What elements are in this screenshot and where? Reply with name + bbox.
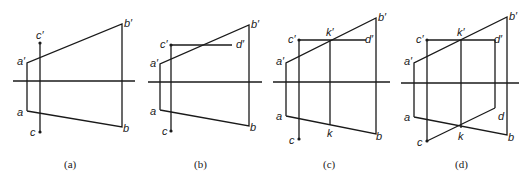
caption-a: (a) [64,158,77,171]
label-c-prime: c′ [416,33,425,45]
point-c-prime [297,38,300,41]
figure-a: c′ a′ b′ a b c (a) [13,17,135,171]
label-c: c [162,125,168,137]
label-a-prime: a′ [150,57,159,69]
label-b-prime: b′ [378,11,387,23]
label-a-prime: a′ [276,55,285,67]
point-c [297,137,300,140]
label-d-prime: d′ [236,38,245,50]
label-a: a [17,106,23,118]
point-c-prime [38,41,41,44]
caption-b: (b) [194,158,207,171]
figure-c: c′ k′ d′ a′ b′ a b c k (c) [273,11,390,171]
point-c-prime [425,38,428,41]
label-k-prime: k′ [457,26,466,38]
label-c: c [417,136,423,148]
label-a: a [276,110,282,122]
label-a: a [404,111,410,123]
label-c: c [30,126,36,138]
point-c [169,129,172,132]
label-b: b [508,131,514,143]
label-b: b [123,122,129,134]
label-a-prime: a′ [17,55,26,67]
label-d: d [498,110,505,122]
label-d-prime: d′ [365,33,374,45]
label-b-prime: b′ [251,18,260,30]
label-b-prime: b′ [509,10,518,22]
figure-d: c′ k′ d′ a′ b′ a b c k d (d) [401,10,519,171]
projection-diagram: c′ a′ b′ a b c (a) c′ d′ a′ b′ a b c (b)… [0,0,529,180]
figure-b: c′ d′ a′ b′ a b c (b) [148,18,262,171]
caption-d: (d) [455,158,468,171]
label-b: b [376,130,382,142]
label-k: k [458,130,464,142]
label-b-prime: b′ [124,17,133,29]
label-c-prime: c′ [36,29,45,41]
label-a-prime: a′ [404,55,413,67]
label-b: b [250,121,256,133]
label-c-prime: c′ [160,38,169,50]
point-c-prime [169,43,172,46]
label-k: k [327,127,333,139]
label-a: a [150,105,156,117]
label-d-prime: d′ [494,33,503,45]
caption-c: (c) [323,158,336,171]
point-c [425,139,428,142]
label-c: c [289,134,295,146]
label-k-prime: k′ [326,26,335,38]
point-c [38,130,41,133]
label-c-prime: c′ [288,33,297,45]
